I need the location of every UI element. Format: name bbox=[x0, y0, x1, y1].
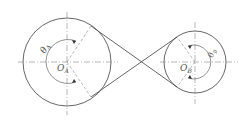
pulley-a-upper-radius bbox=[67, 26, 91, 62]
pulley-a: θA OA bbox=[18, 12, 118, 115]
diagram-canvas: θA OA θB OB bbox=[0, 0, 247, 122]
center-b-label: OB bbox=[180, 63, 192, 74]
belt-drive-diagram: θA OA θB OB bbox=[0, 0, 247, 122]
pulley-b: θB OB bbox=[160, 22, 238, 104]
theta-a-label: θA bbox=[38, 41, 53, 56]
pulley-a-lower-radius bbox=[67, 62, 91, 97]
center-a-label: OA bbox=[57, 63, 69, 74]
pulley-b-upper-radius bbox=[177, 37, 195, 62]
theta-b-label: θB bbox=[206, 48, 218, 59]
